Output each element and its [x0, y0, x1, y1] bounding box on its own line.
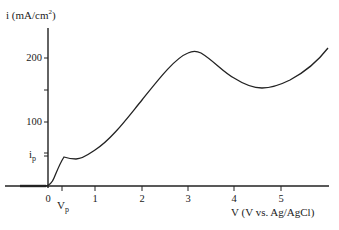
x-tick-3: 3 — [185, 194, 190, 205]
x-tick-0: 0 — [45, 194, 50, 205]
ip-subscript: p — [32, 154, 36, 163]
y-tick-100: 100 — [12, 117, 42, 128]
x-tick-2: 2 — [139, 194, 144, 205]
x-tick-5: 5 — [278, 194, 283, 205]
vp-subscript: p — [65, 205, 69, 214]
x-ticks — [62, 186, 281, 191]
vp-label: V — [57, 199, 65, 211]
chart-canvas — [0, 0, 339, 230]
y-axis-label-text: i (mA/cm — [6, 9, 48, 21]
polarization-curve — [46, 48, 328, 186]
x-tick-vp: Vp — [57, 200, 69, 214]
y-tick-200: 200 — [12, 53, 42, 64]
y-axis-label: i (mA/cm2) — [6, 9, 56, 21]
x-tick-4: 4 — [231, 194, 236, 205]
y-axis-label-close: ) — [52, 9, 56, 21]
y-tick-ip: ip — [29, 149, 36, 163]
x-tick-1: 1 — [92, 194, 97, 205]
x-axis-label: V (V vs. Ag/AgCl) — [231, 207, 314, 218]
